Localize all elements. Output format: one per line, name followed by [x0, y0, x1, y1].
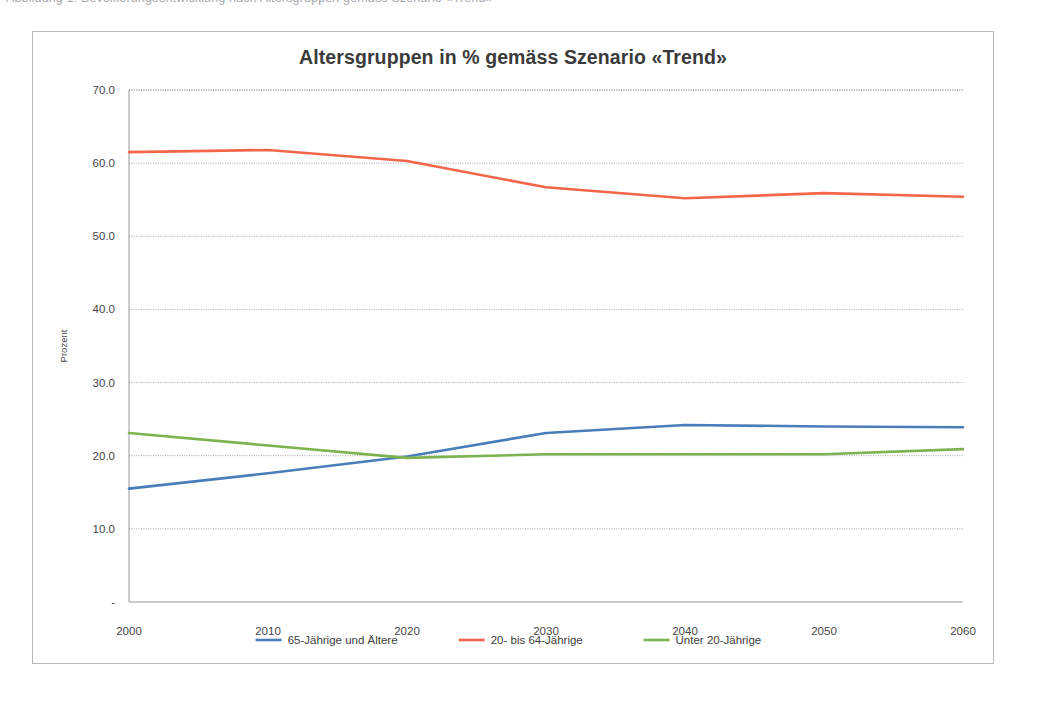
legend-label: 20- bis 64-Jährige	[491, 634, 583, 646]
x-tick-label: 2000	[116, 625, 142, 637]
x-tick-label: 2060	[950, 625, 976, 637]
y-tick-label: 60.0	[93, 157, 115, 169]
y-tick-label: 30.0	[93, 377, 115, 389]
x-tick-label: 2050	[811, 625, 837, 637]
y-axis-title: Prozent	[58, 329, 69, 362]
axes	[129, 90, 963, 602]
gridlines	[129, 90, 963, 529]
legend-label: Unter 20-Jährige	[676, 634, 762, 646]
x-tick-label: 2020	[394, 625, 420, 637]
y-tick-label: 20.0	[93, 450, 115, 462]
y-tick-label: -	[111, 596, 115, 608]
series-line	[129, 425, 963, 489]
chart-legend: 65-Jährige und Ältere20- bis 64-JährigeU…	[256, 634, 762, 646]
y-axis-title-text: Prozent	[58, 329, 69, 362]
figure-frame: Altersgruppen in % gemäss Szenario «Tren…	[32, 31, 994, 664]
series-line	[129, 433, 963, 458]
line-chart: 70.060.050.040.030.020.010.0- 2000201020…	[33, 32, 995, 665]
series-line	[129, 150, 963, 198]
legend-label: 65-Jährige und Ältere	[288, 634, 398, 646]
y-tick-label: 70.0	[93, 84, 115, 96]
scanned-caption-fragment: Abbildung 1: Bevölkerungsentwicklung nac…	[6, 0, 706, 9]
data-series	[129, 150, 963, 489]
y-tick-label: 50.0	[93, 230, 115, 242]
x-tick-label: 2010	[255, 625, 281, 637]
y-tick-label: 40.0	[93, 303, 115, 315]
y-axis-tick-labels: 70.060.050.040.030.020.010.0-	[93, 84, 116, 608]
y-tick-label: 10.0	[93, 523, 115, 535]
